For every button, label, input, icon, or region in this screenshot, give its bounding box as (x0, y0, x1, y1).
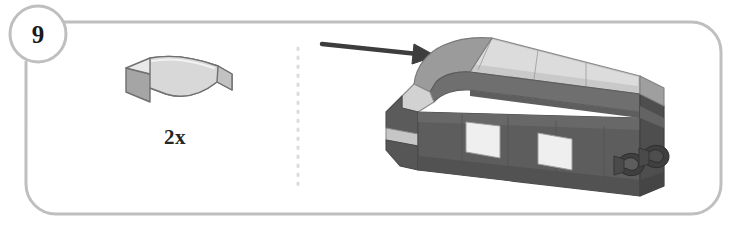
part-end-cap (217, 66, 232, 90)
coupler-2-stem (639, 148, 649, 167)
part-curved-slope-3x1 (126, 56, 232, 102)
placement-arrow (322, 44, 436, 64)
window-1 (466, 122, 500, 158)
coupler-1-stem (614, 156, 624, 175)
step-number-label: 9 (32, 21, 45, 48)
part-quantity-label: 2x (164, 125, 186, 149)
step-number-badge: 9 (10, 6, 66, 62)
instruction-illustration: 9 2x (0, 0, 731, 232)
train-car-model (386, 38, 669, 196)
arrow-shaft (322, 44, 418, 54)
window-2 (538, 133, 572, 170)
instruction-page: 9 2x (0, 0, 731, 232)
